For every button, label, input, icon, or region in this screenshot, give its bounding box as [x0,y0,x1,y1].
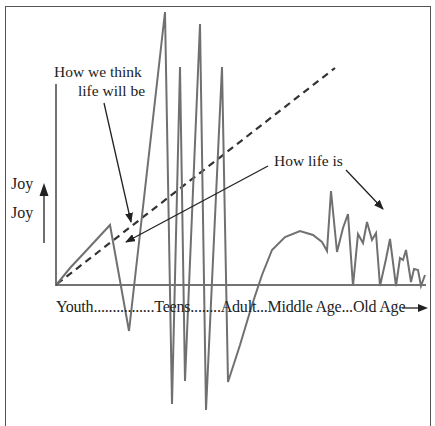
y-axis-label-bottom: Joy [11,204,33,221]
joy-up-arrow-icon [40,183,49,243]
expectation-annotation-line1: How we think [54,63,142,80]
reality-pointer-arrow-right [346,170,383,209]
x-axis-label: Youth................Teens........Adult.… [56,298,405,315]
y-axis-label-top: Joy [11,175,33,192]
expectation-pointer-arrow [104,103,131,222]
x-axis-arrow-icon [402,304,428,312]
expectation-annotation-line2: life will be [78,82,145,99]
reality-annotation: How life is [274,152,343,169]
